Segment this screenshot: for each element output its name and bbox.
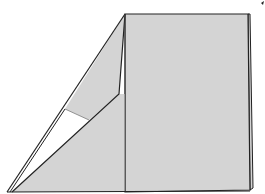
right-panel: [125, 14, 250, 192]
corner-tick-icon: [261, 1, 264, 5]
origami-fold-diagram: [0, 0, 265, 194]
